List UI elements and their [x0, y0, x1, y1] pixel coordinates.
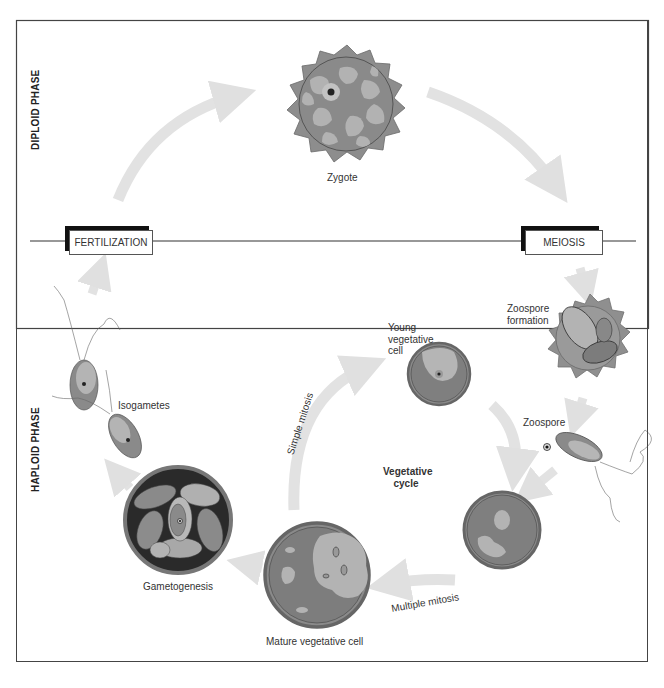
zoospore-label: Zoospore — [523, 417, 565, 429]
vegetative-cycle-line1: Vegetative — [383, 466, 429, 478]
fertilization-box: FERTILIZATION — [69, 230, 153, 255]
zygote-label: Zygote — [327, 172, 358, 184]
isogametes-label: Isogametes — [118, 400, 170, 412]
zoospore-formation-label: Zoospore formation — [507, 303, 549, 326]
meiosis-box: MEIOSIS — [525, 230, 603, 255]
young-vegetative-line1: Young — [388, 322, 434, 334]
diploid-phase-label: DIPLOID PHASE — [30, 70, 41, 150]
vegetative-cycle-label: Vegetative cycle — [383, 466, 429, 489]
young-vegetative-line2: vegetative — [388, 334, 434, 346]
young-vegetative-label: Young vegetative cell — [388, 322, 434, 357]
mature-vegetative-label: Mature vegetative cell — [266, 636, 363, 648]
zoospore-formation-line1: Zoospore — [507, 303, 549, 315]
young-vegetative-line3: cell — [388, 345, 434, 357]
frame-border — [16, 20, 648, 662]
vegetative-cycle-line2: cycle — [383, 478, 429, 490]
haploid-phase-label: HAPLOID PHASE — [30, 407, 41, 492]
zoospore-formation-line2: formation — [507, 315, 549, 327]
gametogenesis-label: Gametogenesis — [143, 581, 213, 593]
